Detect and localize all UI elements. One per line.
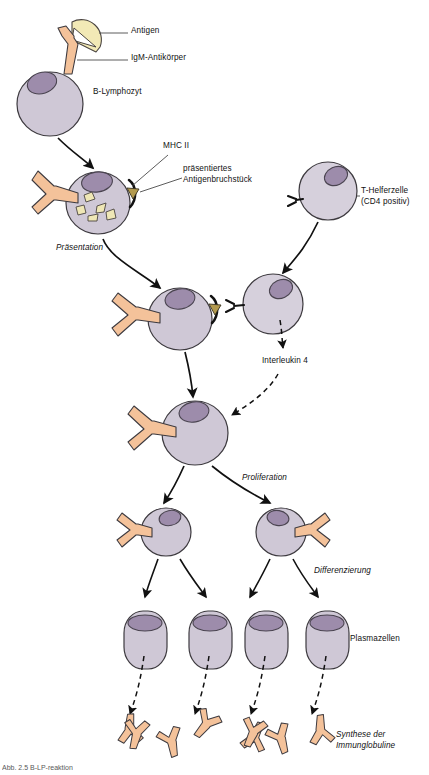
stage-t-helper-group [288, 162, 360, 220]
label-interleukin-4: Interleukin 4 [262, 356, 308, 367]
diagram-canvas: Antigen IgM-Antikörper B-Lymphozyt MHC I… [0, 0, 429, 775]
label-antigen: Antigen [131, 26, 159, 37]
label-synthesis-line1: Synthese der [336, 730, 395, 741]
arrow-diff-2 [180, 559, 206, 597]
label-synthesis: Synthese der Immunglobuline [336, 730, 395, 751]
arrow-thelper-to-contact [283, 222, 318, 273]
label-b-lymphocyte: B-Lymphozyt [93, 87, 142, 98]
immunoglobulin-shape [306, 713, 336, 746]
label-presented-fragment-line1: präsentiertes [183, 164, 252, 175]
immunoglobulin-shape [263, 721, 298, 758]
stage-binding-group [17, 20, 128, 136]
label-presented-fragment: präsentiertes Antigenbruchstück [183, 164, 252, 185]
nucleus [249, 615, 283, 631]
label-t-helper-line2: (CD4 positiv) [361, 197, 410, 208]
plasma-cell [245, 611, 288, 669]
figure-caption: Abb. 2.5 B-LP-reaktion [2, 764, 73, 773]
arrow-interleukin-to-bcell [232, 374, 278, 415]
arrow-contact-to-activated [185, 352, 193, 397]
plasma-cell [124, 611, 167, 669]
nucleus [128, 615, 162, 631]
b-lymphocyte-cell [17, 68, 83, 136]
arrow-presentation-to-contact [103, 239, 160, 288]
label-proliferation: Proliferation [242, 473, 287, 484]
arrow-diff-4 [293, 559, 318, 597]
arrow-proliferation-right [212, 466, 270, 503]
label-t-helper-line1: T-Helferzelle [361, 186, 410, 197]
stage-presentation-group [32, 155, 182, 234]
label-mhc-ii: MHC II [163, 141, 189, 152]
nucleus [310, 615, 344, 631]
arrow-proliferation-left [164, 466, 184, 503]
t-cell-receptor-shape [226, 300, 244, 312]
stage-plasma-cells-group [124, 611, 349, 669]
plasma-cell [189, 611, 232, 669]
label-plasma-cells: Plasmazellen [350, 634, 400, 645]
label-synthesis-line2: Immunglobuline [336, 741, 395, 752]
plasma-cell [306, 611, 349, 669]
arrow-diff-3 [250, 559, 270, 597]
immunoglobulin-shape [188, 706, 224, 743]
label-presentation: Präsentation [56, 243, 103, 254]
label-igm-antibody: IgM-Antikörper [131, 53, 186, 64]
arrow-diff-1 [145, 559, 158, 597]
leader-line-mhc [132, 155, 168, 186]
leader-line-fragment [140, 178, 182, 192]
stage-proliferation-group [117, 508, 330, 556]
immunology-diagram-svg [0, 0, 429, 775]
label-t-helper-cell: T-Helferzelle (CD4 positiv) [361, 186, 410, 207]
nucleus [193, 615, 227, 631]
stage-immunoglobulins-group [116, 706, 336, 760]
stage-activated-group [128, 400, 228, 465]
label-differentiation: Differenzierung [314, 566, 371, 577]
label-presented-fragment-line2: Antigenbruchstück [183, 175, 252, 186]
stage-contact-group [112, 274, 303, 350]
arrow-binding-to-presentation [58, 138, 93, 168]
immunoglobulin-shape [155, 725, 189, 760]
